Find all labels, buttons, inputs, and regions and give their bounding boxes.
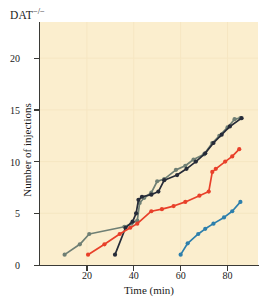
data-point-marker	[155, 179, 159, 183]
data-series-layer	[63, 116, 244, 257]
data-point-marker	[140, 195, 144, 199]
x-axis-tick-label: 80	[208, 270, 248, 281]
data-point-marker	[102, 242, 106, 246]
y-axis-tick-label: 10	[0, 156, 20, 167]
page-title: DAT−/−	[10, 6, 45, 21]
x-axis-tick-label: 60	[161, 270, 201, 281]
data-point-marker	[230, 209, 234, 213]
data-point-marker	[149, 193, 153, 197]
data-point-marker	[239, 116, 243, 120]
data-point-marker	[222, 215, 226, 219]
y-axis-tick	[34, 109, 39, 110]
data-point-marker	[223, 160, 227, 164]
data-point-marker	[203, 151, 207, 155]
data-point-marker	[207, 189, 211, 193]
data-point-marker	[136, 198, 140, 202]
plot-svg	[40, 22, 258, 265]
data-point-marker	[237, 147, 241, 151]
data-point-marker	[113, 253, 117, 257]
data-point-marker	[194, 160, 198, 164]
data-point-marker	[183, 200, 187, 204]
plot-area	[40, 22, 258, 265]
panel-title-superscript: −/−	[33, 6, 45, 16]
data-point-marker	[230, 154, 234, 158]
data-point-marker	[149, 209, 153, 213]
series-subject-dark-navy	[113, 116, 244, 257]
y-axis-tick	[34, 265, 39, 266]
series-subject-blue	[179, 200, 243, 257]
data-point-marker	[232, 117, 236, 121]
y-axis-title: Number of injections	[21, 70, 33, 230]
x-axis-title: Time (min)	[40, 284, 258, 296]
series-subject-gray-green	[63, 116, 243, 257]
x-axis-tick-label: 40	[114, 270, 154, 281]
data-point-marker	[220, 133, 224, 137]
x-axis-line	[39, 265, 259, 266]
data-point-marker	[228, 124, 232, 128]
data-point-marker	[197, 194, 201, 198]
y-axis-tick	[34, 213, 39, 214]
data-point-marker	[196, 232, 200, 236]
data-point-marker	[160, 207, 164, 211]
y-axis-tick-label: 0	[0, 260, 20, 271]
data-point-marker	[210, 170, 214, 174]
data-point-marker	[118, 232, 122, 236]
data-point-marker	[63, 253, 67, 257]
y-axis-tick-label: 20	[0, 53, 20, 64]
data-point-marker	[214, 167, 218, 171]
series-line	[88, 149, 239, 254]
data-point-marker	[174, 168, 178, 172]
x-axis-tick-label: 20	[67, 270, 107, 281]
y-axis-tick-label: 5	[0, 208, 20, 219]
data-point-marker	[186, 241, 190, 245]
series-subject-red	[86, 147, 241, 257]
data-point-marker	[179, 253, 183, 257]
data-point-marker	[238, 200, 242, 204]
data-point-marker	[211, 141, 215, 145]
data-point-marker	[172, 204, 176, 208]
data-point-marker	[134, 211, 138, 215]
data-point-marker	[156, 189, 160, 193]
data-point-marker	[128, 226, 132, 230]
y-axis-tick-label: 15	[0, 104, 20, 115]
data-point-marker	[175, 173, 179, 177]
data-point-marker	[211, 222, 215, 226]
data-point-marker	[86, 253, 90, 257]
data-point-marker	[135, 222, 139, 226]
chart-panel: DAT−/− 0510152020406080 Number of inject…	[0, 0, 266, 302]
y-axis-line	[39, 22, 40, 266]
data-point-marker	[184, 167, 188, 171]
data-point-marker	[130, 219, 134, 223]
data-point-marker	[78, 242, 82, 246]
y-axis-tick	[34, 161, 39, 162]
gridlines	[40, 22, 258, 265]
data-point-marker	[87, 232, 91, 236]
data-point-marker	[203, 227, 207, 231]
panel-title-main: DAT	[10, 9, 33, 21]
data-point-marker	[162, 178, 166, 182]
y-axis-tick	[34, 58, 39, 59]
